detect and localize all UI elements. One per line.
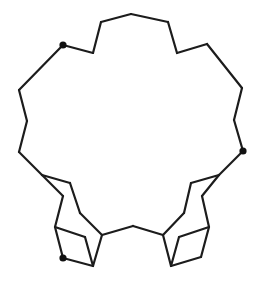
vertex-dot [59,254,66,261]
diagram-canvas [0,0,276,284]
edge-line [163,235,171,266]
edge-line [102,226,133,235]
edge-line [201,227,209,257]
edge-line [133,226,163,235]
edge-line [171,257,201,266]
edge-line [93,22,101,53]
vertex-dot [59,41,66,48]
edge-line [55,227,63,258]
edge-line [19,45,63,90]
edge-line [55,227,85,237]
edge-line [168,22,177,53]
edge-line [234,88,242,120]
edge-line [101,14,131,22]
edge-line [219,151,243,175]
edge-line [163,213,184,235]
edge-line [70,183,80,213]
molecular-line-drawing [0,0,276,284]
edge-line [55,196,63,227]
vertex-dot [239,147,246,154]
edge-line [171,237,179,266]
edge-line [85,237,93,266]
edge-line [80,213,102,235]
edge-line [131,14,168,22]
edge-line [93,235,102,266]
edge-line [234,120,243,151]
edge-line [19,152,42,175]
edge-line [177,44,207,53]
edge-line [184,183,191,213]
edge-line [63,45,93,53]
dot-group [59,41,246,261]
edge-line [63,258,93,266]
edge-line [19,121,27,152]
edge-line [19,90,27,121]
edge-line [179,227,209,237]
edge-group [19,14,243,266]
edge-line [202,196,209,227]
edge-line [207,44,242,88]
